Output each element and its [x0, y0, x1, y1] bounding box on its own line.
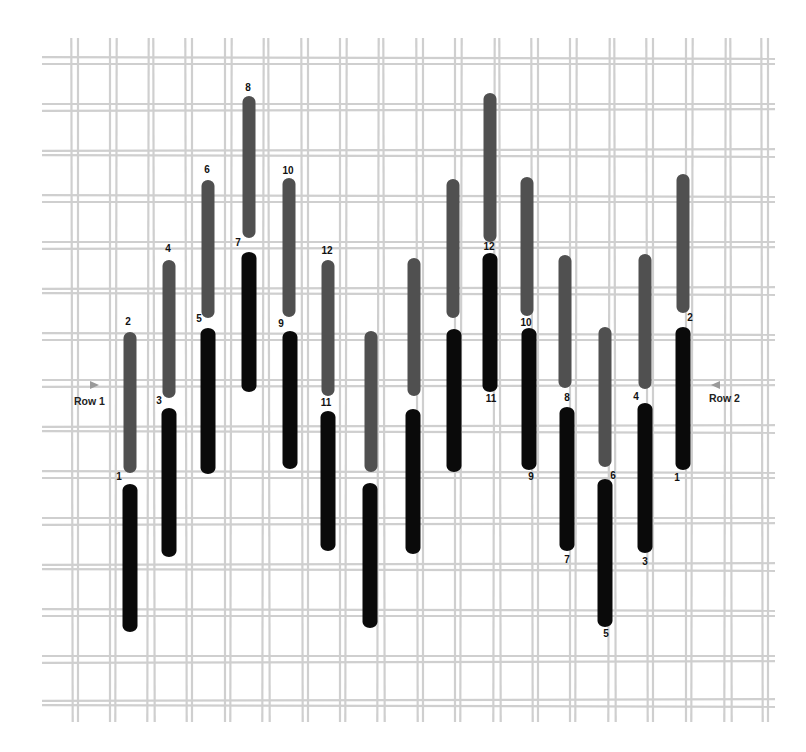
- black-stitch: [283, 331, 298, 469]
- gray-stitch: [639, 254, 652, 389]
- black-stitch: [522, 328, 537, 470]
- gray-stitch: [283, 178, 296, 317]
- vertical-thread: [345, 38, 346, 722]
- stitch-number-label: 4: [165, 244, 171, 254]
- gray-stitch: [124, 332, 137, 473]
- horizontal-thread: [42, 149, 775, 151]
- horizontal-thread: [42, 569, 775, 571]
- stitch-number-label: 12: [321, 246, 332, 256]
- gray-stitch: [677, 174, 690, 313]
- gray-stitch: [447, 179, 460, 318]
- vertical-thread: [691, 38, 692, 722]
- black-stitch: [406, 409, 421, 554]
- stitch-number-label: 1: [116, 472, 122, 482]
- stitch-number-label: 9: [278, 319, 284, 329]
- vertical-thread: [730, 38, 731, 722]
- vertical-thread: [377, 38, 378, 722]
- stitch-number-label: 12: [483, 242, 494, 252]
- stitch-number-label: 7: [235, 238, 241, 248]
- horizontal-thread: [42, 609, 775, 611]
- black-stitch: [162, 408, 177, 557]
- gray-stitch: [322, 260, 335, 396]
- black-stitch: [321, 411, 336, 551]
- vertical-thread: [185, 38, 186, 722]
- black-stitch: [201, 328, 216, 474]
- vertical-thread: [262, 38, 263, 722]
- vertical-thread: [499, 38, 500, 722]
- stitch-number-label: 11: [486, 394, 497, 404]
- stitch-number-label: 5: [603, 629, 609, 639]
- vertical-thread: [153, 38, 154, 722]
- stitch-number-label: 9: [528, 472, 534, 482]
- stitch-number-label: 3: [642, 557, 648, 567]
- stitch-number-label: 4: [633, 392, 639, 402]
- black-stitch: [560, 407, 575, 551]
- row-label: Row 1: [74, 395, 105, 407]
- black-stitch: [363, 483, 378, 628]
- stitch-number-label: 3: [156, 396, 162, 406]
- vertical-thread: [614, 38, 615, 722]
- stitch-number-label: 6: [610, 471, 616, 481]
- horizontal-thread: [42, 699, 775, 701]
- horizontal-thread: [42, 661, 775, 663]
- horizontal-thread: [42, 705, 775, 707]
- stitch-number-label: 11: [321, 398, 332, 408]
- row-label: Row 2: [709, 392, 740, 404]
- black-stitch: [447, 329, 462, 472]
- canvas-grid: [0, 0, 806, 752]
- stitch-number-label: 1: [674, 473, 680, 483]
- stitch-number-label: 7: [564, 555, 570, 565]
- stitch-number-label: 8: [245, 83, 251, 93]
- vertical-thread: [268, 38, 269, 722]
- stitch-number-label: 5: [196, 314, 202, 324]
- gray-stitch: [243, 96, 256, 238]
- gray-stitch: [559, 255, 572, 388]
- vertical-thread: [575, 38, 576, 722]
- black-stitch: [598, 479, 613, 627]
- black-stitch: [483, 253, 498, 392]
- vertical-thread: [230, 38, 231, 722]
- horizontal-thread: [42, 195, 775, 197]
- horizontal-thread: [42, 155, 775, 157]
- vertical-thread: [301, 38, 302, 722]
- stitch-number-label: 6: [204, 165, 210, 175]
- black-stitch: [242, 252, 257, 392]
- gray-stitch: [163, 260, 176, 398]
- gray-stitch: [365, 331, 378, 472]
- gray-stitch: [599, 327, 612, 467]
- gray-stitch: [202, 180, 215, 318]
- stitch-number-label: 10: [520, 318, 531, 328]
- stitch-diagram: 123456789101112121110987654321 Row 1Row …: [0, 0, 806, 752]
- horizontal-thread: [42, 563, 775, 565]
- horizontal-thread: [42, 247, 775, 249]
- vertical-thread: [383, 38, 384, 722]
- vertical-thread: [724, 38, 725, 722]
- stitch-number-label: 2: [125, 317, 131, 327]
- stitch-number-label: 8: [564, 393, 570, 403]
- black-stitch: [638, 403, 653, 553]
- arrow-right-icon: [90, 381, 99, 389]
- vertical-thread: [147, 38, 148, 722]
- horizontal-thread: [42, 57, 775, 59]
- black-stitch: [676, 327, 691, 470]
- stitch-number-label: 2: [687, 313, 693, 323]
- gray-stitch: [408, 258, 421, 396]
- horizontal-thread: [42, 109, 775, 111]
- vertical-thread: [115, 38, 116, 722]
- arrow-left-icon: [711, 381, 720, 389]
- stitch-number-label: 10: [282, 166, 293, 176]
- gray-stitch: [521, 177, 534, 316]
- black-stitch: [123, 484, 138, 632]
- gray-stitch: [484, 93, 497, 242]
- vertical-thread: [71, 38, 72, 722]
- vertical-thread: [761, 38, 762, 722]
